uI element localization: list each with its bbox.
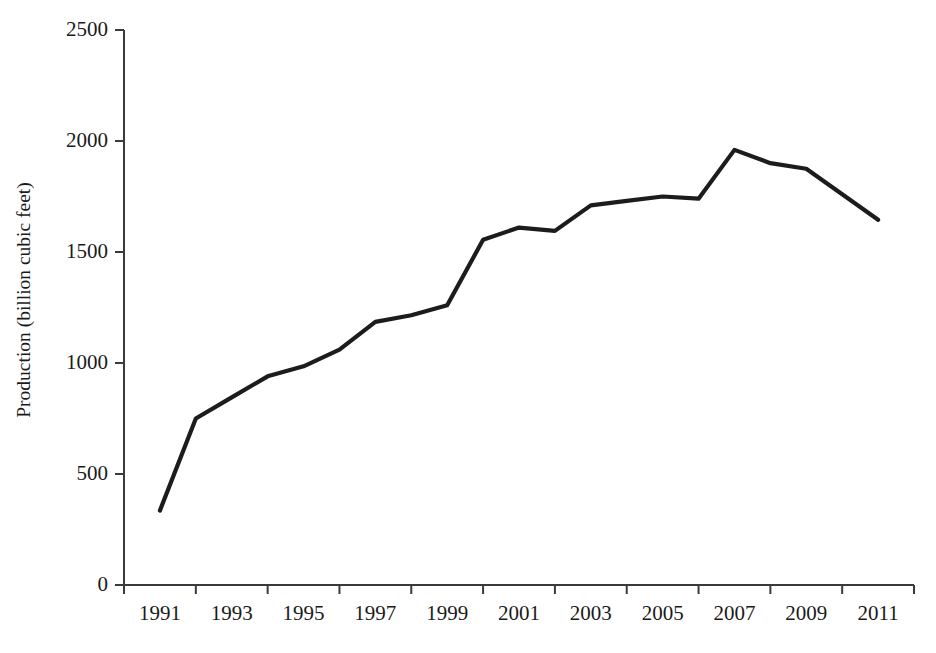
x-tick-label: 2007 [713, 601, 755, 625]
y-tick-label: 2500 [66, 17, 108, 41]
x-tick-label: 1993 [211, 601, 253, 625]
x-tick-label: 1997 [354, 601, 396, 625]
line-chart: 0500100015002000250019911993199519971999… [0, 0, 936, 653]
y-axis-title: Production (billion cubic feet) [13, 182, 35, 418]
y-tick-label: 500 [77, 461, 109, 485]
chart-canvas: 0500100015002000250019911993199519971999… [0, 0, 936, 653]
y-tick-label: 1000 [66, 350, 108, 374]
x-tick-label: 1991 [139, 601, 181, 625]
y-tick-label: 1500 [66, 239, 108, 263]
x-tick-label: 2009 [785, 601, 827, 625]
y-tick-label: 0 [98, 572, 109, 596]
x-tick-label: 2003 [570, 601, 612, 625]
x-tick-label: 1995 [283, 601, 325, 625]
series-line-production [160, 150, 878, 511]
chart-graphics: 0500100015002000250019911993199519971999… [66, 17, 914, 625]
x-tick-label: 2001 [498, 601, 540, 625]
x-tick-label: 2005 [642, 601, 684, 625]
x-tick-label: 2011 [857, 601, 898, 625]
y-tick-label: 2000 [66, 128, 108, 152]
x-tick-label: 1999 [426, 601, 468, 625]
